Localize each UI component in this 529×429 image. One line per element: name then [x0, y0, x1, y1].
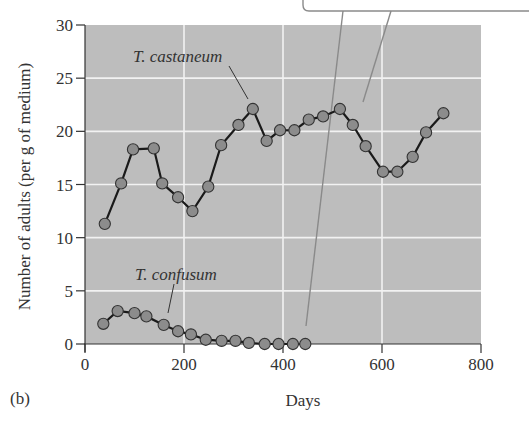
data-point	[259, 338, 270, 349]
data-point	[116, 178, 127, 189]
y-tick-label: 0	[65, 335, 74, 354]
data-point	[247, 103, 258, 114]
data-point	[127, 144, 138, 155]
callout-box	[303, 0, 529, 11]
population-chart: 0510152025300200400600800 T. castaneumT.…	[0, 0, 529, 429]
data-point	[200, 334, 211, 345]
y-tick-label: 30	[56, 16, 73, 35]
x-axis-title: Days	[286, 391, 321, 410]
x-tick-label: 800	[468, 355, 494, 374]
data-point	[203, 181, 214, 192]
x-tick-label: 0	[81, 355, 90, 374]
data-point	[377, 166, 388, 177]
data-point	[273, 338, 284, 349]
data-point	[407, 151, 418, 162]
data-point	[274, 125, 285, 136]
x-tick-label: 600	[369, 355, 395, 374]
data-point	[129, 308, 140, 319]
data-point	[98, 318, 109, 329]
data-point	[157, 178, 168, 189]
data-point	[438, 108, 449, 119]
y-tick-label: 20	[56, 122, 73, 141]
data-point	[420, 127, 431, 138]
label-confusum: T. confusum	[135, 265, 217, 284]
data-point	[334, 103, 345, 114]
data-point	[303, 114, 314, 125]
data-point	[187, 205, 198, 216]
data-point	[112, 305, 123, 316]
data-point	[243, 337, 254, 348]
data-point	[216, 335, 227, 346]
data-point	[287, 338, 298, 349]
y-tick-label: 25	[56, 69, 73, 88]
data-point	[216, 140, 227, 151]
y-tick-label: 10	[56, 229, 73, 248]
label-castaneum: T. castaneum	[133, 47, 222, 66]
data-point	[233, 119, 244, 130]
data-point	[360, 141, 371, 152]
y-axis-title: Number of adults (per g of medium)	[15, 63, 34, 310]
data-point	[148, 143, 159, 154]
data-point	[172, 192, 183, 203]
panel-label: (b)	[10, 389, 30, 408]
data-point	[347, 119, 358, 130]
data-point	[172, 326, 183, 337]
data-point	[158, 319, 169, 330]
data-point	[141, 311, 152, 322]
data-point	[99, 218, 110, 229]
data-point	[392, 166, 403, 177]
data-point	[300, 338, 311, 349]
x-tick-label: 200	[171, 355, 197, 374]
x-tick-label: 400	[270, 355, 296, 374]
data-point	[317, 111, 328, 122]
data-point	[261, 135, 272, 146]
y-tick-label: 15	[56, 176, 73, 195]
data-point	[289, 125, 300, 136]
y-tick-label: 5	[65, 282, 74, 301]
data-point	[185, 329, 196, 340]
data-point	[230, 335, 241, 346]
